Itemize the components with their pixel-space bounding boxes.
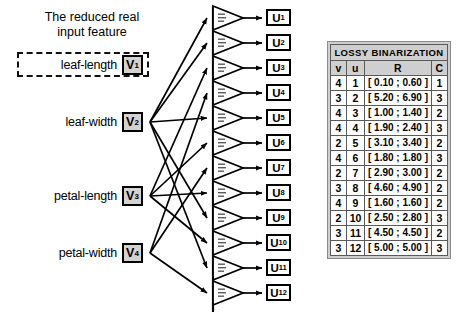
input-node-v1-sub: 1 xyxy=(134,61,138,70)
lossy-binarization-table: LOSSY BINARIZATION v u R C 41[ 0.10 ; 0.… xyxy=(330,44,448,256)
cell-r-8: [ 4.60 ; 4.90 ] xyxy=(365,181,432,196)
output-node-u6[interactable]: U6 xyxy=(266,134,291,151)
page-title: The reduced real input feature xyxy=(18,10,166,40)
input-node-v4-sub: 4 xyxy=(134,249,138,258)
output-node-u2-sub: 2 xyxy=(281,38,285,47)
output-node-u4[interactable]: U4 xyxy=(266,84,291,101)
input-node-v4[interactable]: V4 xyxy=(122,243,143,263)
col-header-u: u xyxy=(347,61,365,76)
output-node-u5[interactable]: U5 xyxy=(266,109,291,126)
cell-c-8: 2 xyxy=(432,181,448,196)
table-body: 41[ 0.10 ; 0.60 ]132[ 5.20 ; 6.90 ]343[ … xyxy=(331,76,448,256)
input-label-v4: petal-width xyxy=(59,246,117,260)
table-title: LOSSY BINARIZATION xyxy=(331,45,448,61)
output-node-u12[interactable]: U12 xyxy=(266,284,291,301)
output-node-u7-letter: U xyxy=(272,162,280,174)
input-label-v2: leaf-width xyxy=(66,115,118,129)
input-node-v3-sub: 3 xyxy=(134,192,138,201)
col-header-r: R xyxy=(365,61,432,76)
output-node-u9-sub: 9 xyxy=(281,213,285,222)
cell-r-10: [ 2.50 ; 2.80 ] xyxy=(365,211,432,226)
cell-u-11: 11 xyxy=(347,226,365,241)
output-node-u9-letter: U xyxy=(272,212,280,224)
cell-v-3: 4 xyxy=(331,106,347,121)
cell-u-4: 4 xyxy=(347,121,365,136)
output-node-u5-letter: U xyxy=(272,112,280,124)
col-header-c: C xyxy=(432,61,448,76)
table-row: 38[ 4.60 ; 4.90 ]2 xyxy=(331,181,448,196)
output-node-u4-sub: 4 xyxy=(281,88,285,97)
table-row: 49[ 1.60 ; 1.60 ]2 xyxy=(331,196,448,211)
output-node-u1-sub: 1 xyxy=(281,13,285,22)
input-feature-v3[interactable]: petal-length V3 xyxy=(18,186,143,206)
output-node-u11[interactable]: U11 xyxy=(266,259,291,276)
cell-v-5: 2 xyxy=(331,136,347,151)
output-node-u3-sub: 3 xyxy=(281,63,285,72)
cell-u-7: 7 xyxy=(347,166,365,181)
cell-r-7: [ 2.90 ; 3.00 ] xyxy=(365,166,432,181)
lossy-binarization-panel: LOSSY BINARIZATION v u R C 41[ 0.10 ; 0.… xyxy=(327,41,451,259)
output-node-u3-letter: U xyxy=(272,62,280,74)
caption-line-1: The reduced real xyxy=(18,10,166,25)
caption-line-2: input feature xyxy=(18,25,166,40)
cell-r-4: [ 1.90 ; 2.40 ] xyxy=(365,121,432,136)
table-header-row: v u R C xyxy=(331,61,448,76)
cell-r-5: [ 3.10 ; 3.40 ] xyxy=(365,136,432,151)
output-node-u8[interactable]: U8 xyxy=(266,184,291,201)
cell-r-2: [ 5.20 ; 6.90 ] xyxy=(365,91,432,106)
output-node-u9[interactable]: U9 xyxy=(266,209,291,226)
cell-v-2: 3 xyxy=(331,91,347,106)
cell-v-6: 4 xyxy=(331,151,347,166)
cell-u-3: 3 xyxy=(347,106,365,121)
output-arrows xyxy=(243,18,262,293)
input-node-v2[interactable]: V2 xyxy=(122,112,143,132)
cell-c-1: 1 xyxy=(432,76,448,91)
output-node-u11-letter: U xyxy=(270,262,278,274)
cell-v-4: 4 xyxy=(331,121,347,136)
output-node-u3[interactable]: U3 xyxy=(266,59,291,76)
cell-r-11: [ 4.50 ; 4.50 ] xyxy=(365,226,432,241)
cell-u-1: 1 xyxy=(347,76,365,91)
edges-from-v3 xyxy=(150,68,207,243)
input-feature-v2[interactable]: leaf-width V2 xyxy=(25,112,143,132)
output-node-u1[interactable]: U1 xyxy=(266,9,291,26)
cell-c-2: 3 xyxy=(432,91,448,106)
cell-u-2: 2 xyxy=(347,91,365,106)
output-node-u2-letter: U xyxy=(272,37,280,49)
cell-u-9: 9 xyxy=(347,196,365,211)
cell-v-7: 2 xyxy=(331,166,347,181)
input-label-v3: petal-length xyxy=(54,189,117,203)
cell-u-6: 6 xyxy=(347,151,365,166)
output-node-u7[interactable]: U7 xyxy=(266,159,291,176)
cell-c-9: 2 xyxy=(432,196,448,211)
input-label-v1: leaf-length xyxy=(61,58,117,72)
input-node-v3[interactable]: V3 xyxy=(122,186,143,206)
input-feature-v4[interactable]: petal-width V4 xyxy=(20,243,143,263)
cell-v-8: 3 xyxy=(331,181,347,196)
input-node-v1-letter: V xyxy=(126,58,134,72)
cell-v-10: 2 xyxy=(331,211,347,226)
table-row: 46[ 1.80 ; 1.80 ]3 xyxy=(331,151,448,166)
input-feature-v1[interactable]: leaf-length V1 xyxy=(25,55,143,75)
cell-u-10: 10 xyxy=(347,211,365,226)
output-node-u10[interactable]: U10 xyxy=(266,234,291,251)
output-node-u2[interactable]: U2 xyxy=(266,34,291,51)
input-node-v2-letter: V xyxy=(126,115,134,129)
output-node-u8-letter: U xyxy=(272,187,280,199)
output-node-u7-sub: 7 xyxy=(281,163,285,172)
table-row: 44[ 1.90 ; 2.40 ]3 xyxy=(331,121,448,136)
cell-u-5: 5 xyxy=(347,136,365,151)
table-row: 210[ 2.50 ; 2.80 ]3 xyxy=(331,211,448,226)
cell-c-12: 3 xyxy=(432,241,448,256)
cell-c-11: 2 xyxy=(432,226,448,241)
cell-v-11: 3 xyxy=(331,226,347,241)
cell-u-12: 12 xyxy=(347,241,365,256)
cell-v-12: 3 xyxy=(331,241,347,256)
cell-v-1: 4 xyxy=(331,76,347,91)
cell-c-7: 2 xyxy=(432,166,448,181)
cell-r-12: [ 5.00 ; 5.00 ] xyxy=(365,241,432,256)
input-node-v1[interactable]: V1 xyxy=(122,55,143,75)
output-node-u12-sub: 12 xyxy=(278,288,286,297)
cell-r-3: [ 1.00 ; 1.40 ] xyxy=(365,106,432,121)
table-row: 25[ 3.10 ; 3.40 ]2 xyxy=(331,136,448,151)
